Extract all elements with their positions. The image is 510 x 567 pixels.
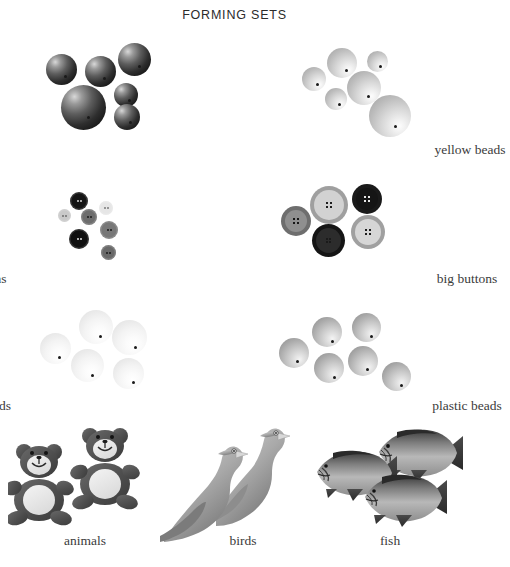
bead bbox=[314, 353, 344, 383]
bead-hole-icon bbox=[99, 335, 102, 338]
little-button bbox=[99, 201, 113, 215]
group-plastic-beads: plastic beads bbox=[235, 300, 469, 415]
bead bbox=[112, 320, 147, 355]
bead-hole-icon bbox=[58, 356, 61, 359]
button-holes-icon bbox=[326, 238, 332, 244]
big-button bbox=[310, 186, 348, 224]
button-holes-icon bbox=[62, 215, 67, 217]
group-red-beads: red beads bbox=[0, 30, 235, 165]
bead-hole-icon bbox=[134, 346, 137, 349]
little-button bbox=[100, 221, 118, 239]
button-holes-icon bbox=[293, 218, 299, 224]
little-button bbox=[101, 245, 116, 260]
page-title: FORMING SETS bbox=[0, 8, 469, 22]
group-little-buttons: little buttons bbox=[0, 180, 235, 290]
big-button-face bbox=[314, 190, 344, 220]
little-button bbox=[58, 209, 71, 222]
button-holes-icon bbox=[365, 229, 371, 235]
bead bbox=[118, 43, 151, 76]
big-button bbox=[281, 206, 311, 236]
bead bbox=[71, 349, 104, 382]
teddy-bear-1 bbox=[8, 444, 76, 527]
big-button-face bbox=[356, 188, 378, 210]
bead bbox=[114, 104, 140, 130]
animals-illustration bbox=[8, 424, 158, 544]
button-holes-icon bbox=[104, 207, 109, 209]
bead bbox=[40, 333, 71, 364]
caption-birds: birds bbox=[198, 533, 288, 549]
bead bbox=[46, 54, 77, 85]
bead bbox=[302, 67, 326, 91]
group-big-buttons: big buttons bbox=[235, 180, 469, 290]
caption-fish: fish bbox=[345, 533, 435, 549]
bead-hole-icon bbox=[379, 65, 382, 68]
bead bbox=[79, 310, 113, 344]
big-button bbox=[352, 184, 382, 214]
teddy-bear-2 bbox=[68, 428, 142, 511]
bead-hole-icon bbox=[333, 376, 336, 379]
little-button bbox=[70, 192, 88, 210]
bead bbox=[327, 48, 357, 78]
bead bbox=[382, 362, 411, 391]
bead-hole-icon bbox=[345, 69, 348, 72]
big-button-face bbox=[355, 219, 381, 245]
little-button bbox=[69, 229, 89, 249]
bead-hole-icon bbox=[367, 95, 370, 98]
bead bbox=[352, 313, 381, 342]
group-birds bbox=[160, 424, 305, 544]
caption-plastic-beads: plastic beads bbox=[350, 398, 510, 414]
caption-animals: animals bbox=[20, 533, 150, 549]
bead bbox=[312, 317, 342, 347]
fish-illustration bbox=[315, 424, 465, 544]
bead bbox=[348, 346, 378, 376]
button-holes-icon bbox=[77, 200, 82, 202]
bead-hole-icon bbox=[128, 99, 131, 102]
bead-hole-icon bbox=[316, 83, 319, 86]
bead-hole-icon bbox=[370, 335, 373, 338]
group-fish bbox=[315, 424, 465, 544]
little-button bbox=[81, 209, 97, 225]
button-holes-icon bbox=[364, 196, 370, 202]
bead-hole-icon bbox=[87, 116, 90, 119]
big-button bbox=[312, 224, 345, 257]
bead-hole-icon bbox=[331, 340, 334, 343]
group-animals bbox=[8, 424, 158, 544]
bead-hole-icon bbox=[103, 77, 106, 80]
bead-hole-icon bbox=[366, 368, 369, 371]
bead bbox=[367, 51, 388, 72]
button-holes-icon bbox=[87, 216, 92, 218]
bead-hole-icon bbox=[138, 65, 141, 68]
button-holes-icon bbox=[107, 229, 112, 231]
button-holes-icon bbox=[106, 252, 111, 254]
bead bbox=[61, 85, 106, 130]
bead bbox=[279, 338, 309, 368]
bead-hole-icon bbox=[132, 381, 135, 384]
caption-red-beads: red beads bbox=[0, 142, 90, 158]
bead bbox=[85, 56, 116, 87]
birds-illustration bbox=[160, 424, 305, 544]
caption-wooden-beads: wooden beads bbox=[0, 398, 90, 414]
button-holes-icon bbox=[77, 238, 82, 240]
bead-hole-icon bbox=[338, 103, 341, 106]
caption-big-buttons: big buttons bbox=[350, 271, 510, 287]
group-wooden-beads: wooden beads bbox=[0, 300, 235, 415]
caption-little-buttons: little buttons bbox=[0, 271, 90, 287]
bead-hole-icon bbox=[394, 125, 397, 128]
bead-hole-icon bbox=[91, 374, 94, 377]
big-button-face bbox=[316, 228, 341, 253]
bead-hole-icon bbox=[64, 75, 67, 78]
bead bbox=[113, 358, 144, 389]
button-holes-icon bbox=[326, 202, 332, 208]
bead bbox=[369, 95, 411, 137]
big-button bbox=[351, 215, 385, 249]
bead-hole-icon bbox=[296, 360, 299, 363]
bead bbox=[325, 88, 347, 110]
bead-hole-icon bbox=[400, 384, 403, 387]
bead-hole-icon bbox=[129, 121, 132, 124]
caption-yellow-beads: yellow beads bbox=[353, 142, 510, 158]
group-yellow-beads: yellow beads bbox=[235, 30, 469, 165]
big-button-face bbox=[285, 210, 307, 232]
